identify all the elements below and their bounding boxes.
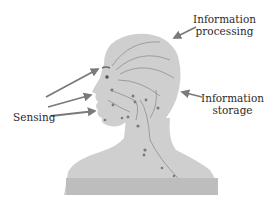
shoulder-band: [66, 178, 218, 195]
label-information-processing: Information processing: [193, 13, 256, 37]
diagram: Information processing Information stora…: [0, 0, 265, 207]
arrow-storage: [182, 92, 202, 97]
head: [92, 34, 181, 127]
arrow-sensing-eye: [46, 69, 98, 97]
arrow-sensing-nose: [48, 95, 91, 107]
label-information-storage: Information storage: [201, 92, 264, 116]
label-sensing: Sensing: [13, 111, 55, 123]
arrow-sensing-mouth: [51, 111, 95, 116]
